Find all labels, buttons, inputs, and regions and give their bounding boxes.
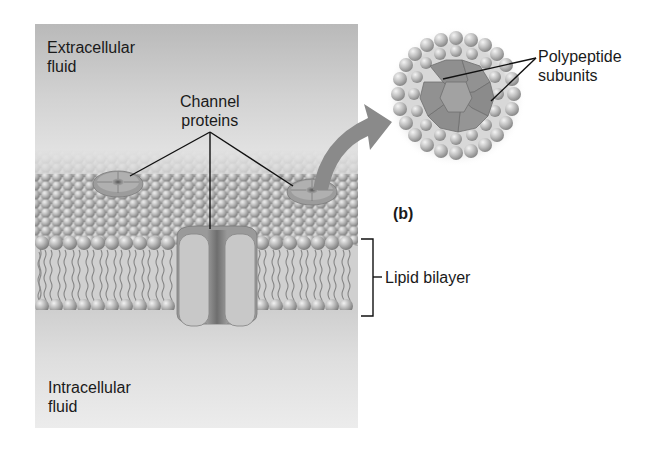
- extracellular-line-1: Extracellular: [47, 38, 135, 57]
- channel-proteins-graphic: [35, 24, 358, 428]
- polypeptide-line-1: Polypeptide: [538, 47, 622, 66]
- channel-protein-top-view-left: [93, 171, 143, 197]
- lipid-ring: [391, 31, 521, 160]
- intracellular-line-1: Intracellular: [48, 378, 131, 397]
- lipid-bilayer-label: Lipid bilayer: [385, 268, 470, 287]
- polypeptide-line-2: subunits: [538, 66, 622, 85]
- polypeptide-subunits-label: Polypeptide subunits: [538, 47, 622, 85]
- intracellular-line-2: fluid: [48, 397, 131, 416]
- polypeptide-subunits: [420, 60, 494, 132]
- extracellular-fluid-label: Extracellular fluid: [47, 38, 135, 76]
- channel-protein-cross-section: [177, 226, 257, 326]
- channel-line-1: Channel: [180, 92, 240, 111]
- channel-proteins-leader-lines: [130, 132, 293, 229]
- polypeptide-leader-lines: [443, 58, 536, 101]
- channel-proteins-label: Channel proteins: [180, 92, 240, 130]
- extracellular-line-2: fluid: [47, 57, 135, 76]
- channel-line-2: proteins: [180, 111, 240, 130]
- intracellular-fluid-label: Intracellular fluid: [48, 378, 131, 416]
- channel-protein-top-view-right: [287, 179, 337, 205]
- lipid-bilayer-bracket: [361, 239, 382, 316]
- panel-letter-b: (b): [393, 204, 413, 223]
- membrane-illustration: Extracellular fluid Channel proteins Int…: [35, 24, 358, 428]
